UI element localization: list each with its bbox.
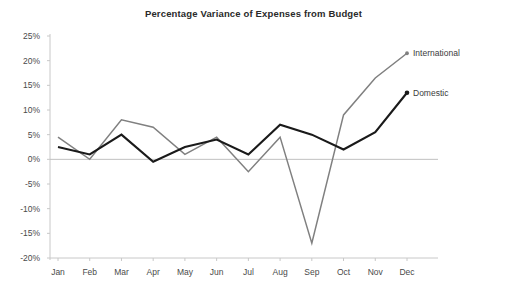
series-label-domestic: Domestic bbox=[413, 88, 448, 98]
series-endpoint-international bbox=[405, 51, 409, 55]
series-endpoint-domestic bbox=[405, 90, 410, 95]
series-label-international: International bbox=[413, 48, 460, 58]
series-line-international bbox=[58, 53, 407, 243]
chart-container: Percentage Variance of Expenses from Bud… bbox=[0, 0, 507, 293]
plot-area bbox=[0, 0, 507, 293]
